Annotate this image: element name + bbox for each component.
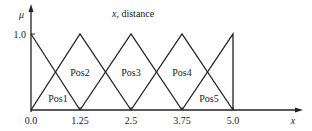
chart-title: x, distance [111, 8, 155, 19]
y-tick-label: 1.0 [14, 29, 27, 40]
x-axis-label: x [290, 115, 296, 126]
x-tick-label-4: 5.0 [227, 115, 240, 126]
x-tick-label-3: 3.75 [173, 115, 191, 126]
region-label-pos3: Pos3 [121, 67, 140, 78]
region-label-pos1: Pos1 [48, 93, 67, 104]
region-label-pos2: Pos2 [70, 67, 89, 78]
y-axis-label: μ [18, 9, 24, 20]
x-axis-arrow-icon [295, 108, 303, 113]
x-tick-label-1: 1.25 [71, 115, 89, 126]
x-tick-label-0: 0.0 [25, 115, 38, 126]
region-label-pos5: Pos5 [199, 93, 218, 104]
membership-function-chart: μ 1.0 x, distance 0.0 1.25 2.5 3.75 5.0 … [0, 0, 312, 131]
y-axis-arrow-icon [29, 4, 34, 12]
x-tick-label-2: 2.5 [125, 115, 138, 126]
region-label-pos4: Pos4 [172, 67, 191, 78]
